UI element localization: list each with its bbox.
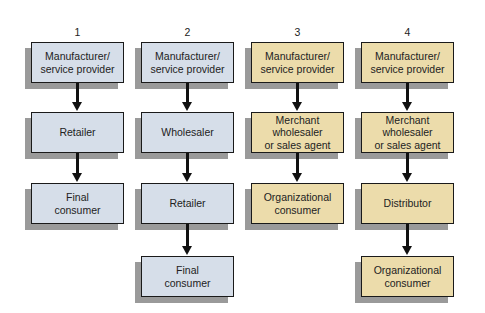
node-manufacturer-service-provider: Manufacturer/ service provider [31,42,124,83]
arrow-down-icon [402,224,412,256]
node-manufacturer-service-provider: Manufacturer/ service provider [251,42,344,83]
arrow-down-icon [72,83,82,112]
node-final-consumer: Final consumer [31,183,124,224]
node-distributor: Distributor [361,183,454,224]
arrow-down-icon [402,153,412,183]
column-number-1: 1 [31,26,124,38]
node-wholesaler: Wholesaler [141,112,234,153]
node-manufacturer-service-provider: Manufacturer/ service provider [141,42,234,83]
arrow-down-icon [72,153,82,183]
node-retailer: Retailer [141,183,234,224]
node-final-consumer: Final consumer [141,256,234,297]
node-organizational-consumer: Organizational consumer [251,183,344,224]
arrow-down-icon [402,83,412,112]
arrow-down-icon [182,224,192,256]
node-organizational-consumer: Organizational consumer [361,256,454,297]
node-retailer: Retailer [31,112,124,153]
arrow-down-icon [182,83,192,112]
arrow-down-icon [182,153,192,183]
column-number-4: 4 [361,26,454,38]
arrow-down-icon [292,153,302,183]
node-manufacturer-service-provider: Manufacturer/ service provider [361,42,454,83]
node-merchant-wholesaler-or-sales-agent: Merchant wholesaler or sales agent [361,112,454,153]
column-number-2: 2 [141,26,234,38]
node-merchant-wholesaler-or-sales-agent: Merchant wholesaler or sales agent [251,112,344,153]
column-number-3: 3 [251,26,344,38]
arrow-down-icon [292,83,302,112]
